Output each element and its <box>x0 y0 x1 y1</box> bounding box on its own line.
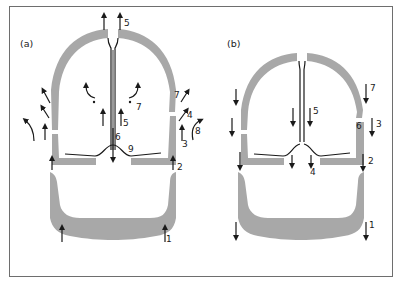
label-3: 3 <box>182 139 188 149</box>
label-6: 6 <box>115 132 121 142</box>
panel-a-label: (a) <box>20 38 33 49</box>
arrow-curl-outer-left <box>25 120 34 141</box>
label-2: 2 <box>177 162 183 172</box>
dome-right-lip <box>131 116 176 165</box>
label-3-b: 3 <box>376 119 382 129</box>
label-4-b: 4 <box>310 167 316 177</box>
label-4: 4 <box>187 110 193 120</box>
dome-shell-right <box>118 29 176 112</box>
lower-tub-shell-b <box>238 172 364 240</box>
dome-left-lip-b <box>241 134 284 165</box>
panel-b: (b) 5 7 6 3 2 4 1 <box>227 38 382 240</box>
label-8: 8 <box>195 126 201 136</box>
label-9: 9 <box>128 144 134 154</box>
dome-left-lip <box>52 134 96 165</box>
label-1: 1 <box>166 234 172 244</box>
label-5-top: 5 <box>124 18 130 28</box>
label-7-inner: 7 <box>136 102 142 112</box>
dome-shell-left-b <box>241 53 297 130</box>
label-7-outer: 7 <box>174 90 180 100</box>
diaphragm-line-b <box>254 144 350 156</box>
label-2-b: 2 <box>368 156 374 166</box>
arrow-curl-left <box>86 85 95 98</box>
panel-a: (a) <box>20 15 201 244</box>
label-5-inner: 5 <box>123 118 129 128</box>
central-tube-b <box>299 61 305 142</box>
arrow-curl-7 <box>129 85 138 98</box>
label-5-b: 5 <box>313 106 319 116</box>
diagram-canvas: (a) <box>0 0 404 282</box>
dot-left <box>93 101 95 103</box>
arrow-4 <box>179 110 187 121</box>
arrow-outer-mid-left <box>42 107 49 118</box>
label-1-b: 1 <box>369 220 375 230</box>
label-6-b: 6 <box>356 121 362 131</box>
lower-tub-shell <box>50 172 176 240</box>
label-7-b: 7 <box>370 83 376 93</box>
dot-right <box>129 101 131 103</box>
panel-b-label: (b) <box>227 38 240 49</box>
arrow-7-outer <box>181 91 188 102</box>
dome-shell-left <box>51 29 108 130</box>
arrow-outer-upper-left <box>43 90 50 103</box>
